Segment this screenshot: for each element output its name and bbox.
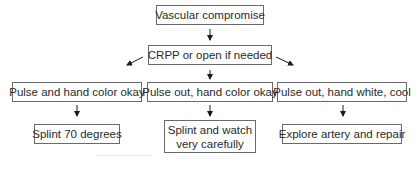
node-label: Pulse out, hand color okay bbox=[142, 85, 278, 99]
node-vascular-compromise: Vascular compromise bbox=[156, 5, 264, 25]
arrow-step-to-left bbox=[127, 57, 143, 65]
node-splint-and-watch: Splint and watch very carefully bbox=[164, 120, 256, 153]
scan-artifact-line bbox=[96, 155, 152, 156]
node-label-line-1: Splint and watch bbox=[168, 123, 252, 137]
node-label: Splint 70 degrees bbox=[32, 127, 122, 141]
node-crpp: CRPP or open if needed bbox=[148, 45, 272, 65]
arrow-step-to-right bbox=[276, 57, 293, 65]
node-explore-artery-and-repair: Explore artery and repair bbox=[282, 124, 402, 144]
node-pulse-out-hand-color-okay: Pulse out, hand color okay bbox=[147, 82, 273, 102]
node-label-line-2: very carefully bbox=[176, 137, 244, 151]
node-label: Vascular compromise bbox=[155, 8, 265, 22]
node-pulse-and-hand-color-okay: Pulse and hand color okay bbox=[12, 82, 142, 102]
node-label: Explore artery and repair bbox=[279, 127, 406, 141]
node-pulse-out-hand-white-cool: Pulse out, hand white, cool bbox=[277, 82, 407, 102]
node-label: Pulse out, hand white, cool bbox=[273, 85, 410, 99]
node-label: CRPP or open if needed bbox=[148, 48, 272, 62]
node-label: Pulse and hand color okay bbox=[9, 85, 145, 99]
node-splint-70-degrees: Splint 70 degrees bbox=[34, 124, 120, 144]
